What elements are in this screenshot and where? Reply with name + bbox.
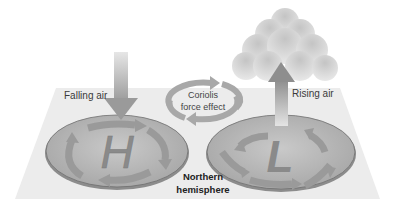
hemisphere-label-line1: Northern bbox=[173, 172, 233, 182]
low-symbol: L bbox=[267, 132, 294, 181]
coriolis-label-line1: Coriolis bbox=[173, 91, 233, 100]
rising-air-label: Rising air bbox=[292, 89, 334, 99]
falling-air-label: Falling air bbox=[64, 91, 107, 101]
pressure-system-diagram: H L Falling air Rising air Coriolis forc… bbox=[0, 0, 396, 208]
hemisphere-label-line2: hemisphere bbox=[173, 185, 233, 195]
coriolis-label-line2: force effect bbox=[173, 103, 233, 112]
high-symbol: H bbox=[100, 126, 134, 178]
